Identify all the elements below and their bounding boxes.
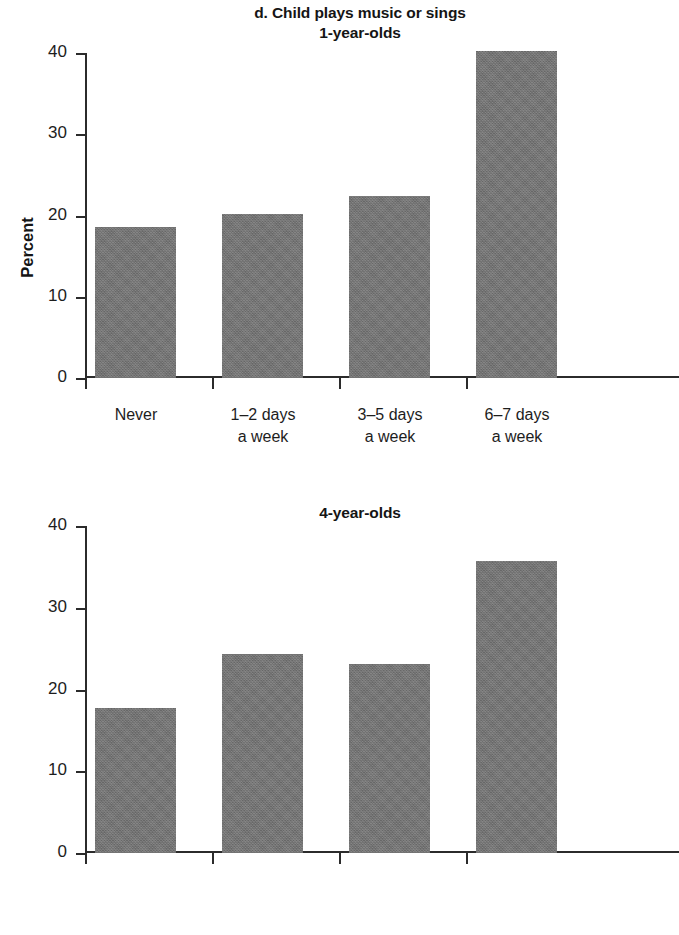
bar-1-2-days-1 — [222, 214, 303, 378]
y-tick-label-0-1: 0 — [27, 367, 67, 387]
y-tick-30-2 — [76, 608, 85, 610]
chart-title-2: 4-year-olds — [60, 503, 660, 523]
x-tick-0-1 — [85, 378, 87, 389]
x-tick-2-1 — [339, 378, 341, 389]
plot-area-2: 0 10 20 30 40 — [85, 526, 679, 853]
bar-3-5-days-1 — [349, 196, 430, 378]
figure-two-bar-charts: d. Child plays music or sings 1-year-old… — [0, 0, 679, 935]
chart-panel-1-year-olds: d. Child plays music or sings 1-year-old… — [0, 0, 679, 480]
chart-panel-4-year-olds: 4-year-olds 0 10 20 30 40 Percent — [0, 490, 679, 935]
y-tick-label-40-2: 40 — [27, 515, 67, 535]
y-tick-20-2 — [76, 690, 85, 692]
y-tick-label-0-2: 0 — [27, 842, 67, 862]
x-tick-3-2 — [466, 853, 468, 864]
x-tick-1-1 — [212, 378, 214, 389]
chart-title-main-1: d. Child plays music or sings — [60, 3, 660, 23]
bar-6-7-days-2 — [476, 561, 557, 853]
x-label-never-1: Never — [76, 404, 196, 426]
x-tick-0-2 — [85, 853, 87, 864]
y-tick-0-2 — [76, 853, 85, 855]
x-label-6-7-days-1: 6–7 days a week — [457, 404, 577, 448]
plot-area-1: 0 10 20 30 40 — [85, 53, 679, 378]
x-label-1-2-days-1: 1–2 days a week — [203, 404, 323, 448]
chart-title-main-2: 4-year-olds — [60, 503, 660, 523]
y-tick-label-30-2: 30 — [27, 597, 67, 617]
bar-never-1 — [95, 227, 176, 378]
x-tick-1-2 — [212, 853, 214, 864]
y-tick-20-1 — [76, 216, 85, 218]
y-tick-label-30-1: 30 — [27, 123, 67, 143]
bar-3-5-days-2 — [349, 664, 430, 853]
y-tick-label-40-1: 40 — [27, 42, 67, 62]
y-tick-40-1 — [76, 53, 85, 55]
y-tick-label-10-2: 10 — [27, 760, 67, 780]
y-axis-line-2 — [85, 526, 87, 853]
y-tick-0-1 — [76, 378, 85, 380]
bar-never-2 — [95, 708, 176, 854]
bar-6-7-days-1 — [476, 51, 557, 378]
chart-subtitle-1: 1-year-olds — [60, 23, 660, 43]
bar-1-2-days-2 — [222, 654, 303, 853]
x-tick-2-2 — [339, 853, 341, 864]
y-tick-10-2 — [76, 771, 85, 773]
y-tick-label-20-1: 20 — [27, 205, 67, 225]
y-tick-40-2 — [76, 526, 85, 528]
x-label-3-5-days-1: 3–5 days a week — [330, 404, 450, 448]
y-tick-label-20-2: 20 — [27, 679, 67, 699]
chart-title-1: d. Child plays music or sings 1-year-old… — [60, 3, 660, 43]
y-tick-30-1 — [76, 134, 85, 136]
y-tick-label-10-1: 10 — [27, 286, 67, 306]
y-tick-10-1 — [76, 297, 85, 299]
y-axis-line-1 — [85, 53, 87, 378]
x-tick-3-1 — [466, 378, 468, 389]
